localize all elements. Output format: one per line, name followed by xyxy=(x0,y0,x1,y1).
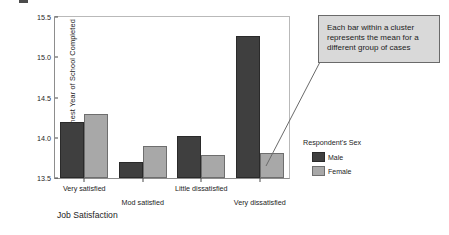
y-axis-tick-label: 14.5 xyxy=(37,93,55,102)
x-axis-tick xyxy=(84,178,85,182)
bar-female xyxy=(84,114,108,178)
x-axis-label: Mod satisfied xyxy=(122,198,164,207)
x-axis-label: Very satisfied xyxy=(63,184,106,193)
legend-label: Male xyxy=(328,154,343,161)
legend-item-female: Female xyxy=(312,166,361,176)
x-axis-label: Very dissatisfied xyxy=(234,198,286,207)
y-axis-tick-label: 14.0 xyxy=(37,133,55,142)
x-axis-tick xyxy=(201,178,202,182)
legend-swatch-female xyxy=(312,166,325,176)
bar-cluster xyxy=(231,17,290,178)
legend-title: Respondent's Sex xyxy=(303,138,361,147)
legend: Respondent's Sex MaleFemale xyxy=(303,138,361,180)
clipped-glyph xyxy=(19,0,28,3)
bar-female xyxy=(260,153,284,178)
x-axis-title: Job Satisfaction xyxy=(57,210,118,220)
bar-cluster xyxy=(55,17,114,178)
bar-chart-figure: Mean Highest Year of School Completed 15… xyxy=(0,0,449,235)
bar-cluster xyxy=(172,17,231,178)
x-axis-tick xyxy=(142,178,143,182)
bar-female xyxy=(201,155,225,178)
bar-female xyxy=(143,146,167,178)
legend-label: Female xyxy=(328,168,351,175)
legend-swatch-male xyxy=(312,152,325,162)
bar-male xyxy=(119,162,143,178)
y-axis-tick-label: 15.0 xyxy=(37,53,55,62)
x-axis-tick xyxy=(259,178,260,182)
bar-male xyxy=(236,36,260,178)
bar-cluster xyxy=(114,17,173,178)
legend-item-male: Male xyxy=(312,152,361,162)
y-axis-tick-label: 13.5 xyxy=(37,174,55,183)
annotation-callout: Each bar within a cluster represents the… xyxy=(318,15,440,63)
y-axis-tick-label: 15.5 xyxy=(37,13,55,22)
bar-male xyxy=(60,122,84,178)
legend-items: MaleFemale xyxy=(303,152,361,176)
bar-male xyxy=(177,136,201,178)
x-axis-label: Little dissatisfied xyxy=(175,184,228,193)
plot-area: Mean Highest Year of School Completed 15… xyxy=(54,16,290,179)
